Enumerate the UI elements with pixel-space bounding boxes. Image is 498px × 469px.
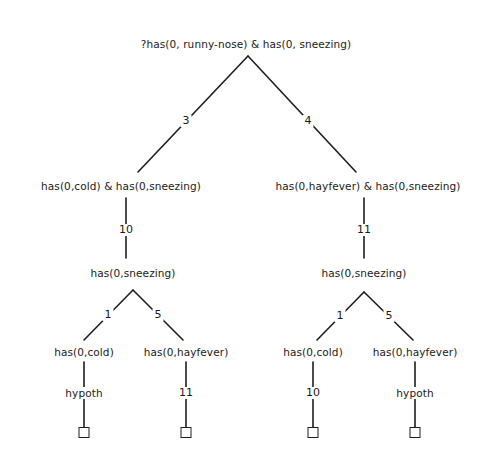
edge-root-left: [138, 56, 248, 172]
empty-clause-box-icon: [79, 427, 90, 438]
edge-label-4: 4: [303, 115, 314, 127]
node-cold-right: has(0,cold): [282, 346, 344, 358]
empty-clause-box-icon: [410, 427, 421, 438]
edge-root-right: [248, 56, 356, 172]
edge-label-11: 11: [355, 224, 373, 236]
empty-clause-box-icon: [308, 427, 319, 438]
node-sneezing-right: has(0,sneezing): [320, 267, 407, 279]
label-10-leaf: 10: [304, 387, 322, 399]
empty-clause-box-icon: [181, 427, 192, 438]
root-goal: ?has(0, runny-nose) & has(0, sneezing): [140, 38, 352, 50]
edge-label-1-left: 1: [103, 309, 114, 321]
node-hayfever-right: has(0,hayfever): [372, 346, 459, 358]
edge-label-10: 10: [117, 224, 135, 236]
edge-label-3: 3: [181, 115, 192, 127]
node-cold-left: has(0,cold): [53, 346, 115, 358]
label-11-leaf: 11: [177, 387, 195, 399]
proof-tree-diagram: ?has(0, runny-nose) & has(0, sneezing) 3…: [0, 0, 498, 469]
label-hypoth-left: hypoth: [64, 387, 103, 399]
edge-label-5-right: 5: [384, 310, 395, 322]
label-hypoth-right: hypoth: [395, 387, 434, 399]
node-cold-and-sneezing: has(0,cold) & has(0,sneezing): [40, 180, 202, 192]
node-sneezing-left: has(0,sneezing): [89, 267, 176, 279]
edge-label-1-right: 1: [335, 310, 346, 322]
node-hayfever-and-sneezing: has(0,hayfever) & has(0,sneezing): [275, 180, 462, 192]
edge-label-5-left: 5: [153, 309, 164, 321]
node-hayfever-left: has(0,hayfever): [143, 346, 230, 358]
